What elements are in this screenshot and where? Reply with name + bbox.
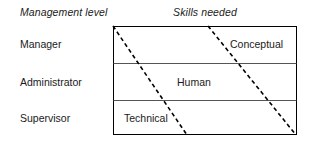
- diagram-canvas: Management level Skills needed Manager A…: [0, 0, 310, 146]
- skill-label-conceptual: Conceptual: [230, 38, 283, 50]
- skill-label-human: Human: [177, 76, 211, 88]
- skills-matrix-graphic: [0, 0, 310, 146]
- skill-label-technical: Technical: [124, 112, 168, 124]
